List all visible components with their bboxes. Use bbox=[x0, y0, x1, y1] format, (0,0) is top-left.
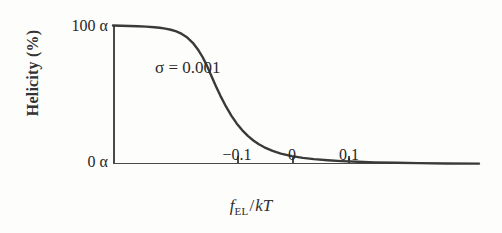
x-tick-label-neg01: −0.1 bbox=[222, 146, 251, 164]
x-axis-label-kt: kT bbox=[255, 196, 272, 215]
helicity-transition-chart: Helicity (%) 100 α 0 α −0.1 0 0.1 σ = 0.… bbox=[0, 0, 502, 233]
y-tick-bottom: 0 α bbox=[44, 153, 108, 173]
y-axis-label: Helicity (%) bbox=[24, 13, 42, 133]
plot-area bbox=[113, 25, 479, 164]
y-tick-top-label: 100 α bbox=[72, 17, 108, 35]
sigma-annotation: σ = 0.001 bbox=[155, 58, 221, 78]
x-tick-label-zero: 0 bbox=[288, 146, 296, 164]
x-axis-label: fEL/kT bbox=[0, 196, 502, 217]
y-tick-top: 100 α bbox=[44, 17, 108, 37]
x-axis-label-subscript: EL bbox=[234, 205, 248, 217]
helicity-curve bbox=[113, 25, 479, 164]
y-tick-bottom-label: 0 α bbox=[88, 153, 108, 171]
x-tick-label-pos01: 0.1 bbox=[339, 146, 359, 164]
